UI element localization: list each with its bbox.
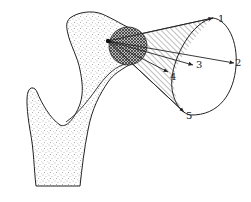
label-4: 4: [170, 71, 176, 82]
label-3: 3: [196, 59, 202, 70]
rotation-center-point: [106, 39, 110, 43]
label-2: 2: [235, 57, 241, 68]
label-1: 1: [218, 13, 224, 24]
femur-cone-diagram: 1 2 3 4 5: [0, 0, 251, 202]
label-5: 5: [186, 110, 192, 121]
